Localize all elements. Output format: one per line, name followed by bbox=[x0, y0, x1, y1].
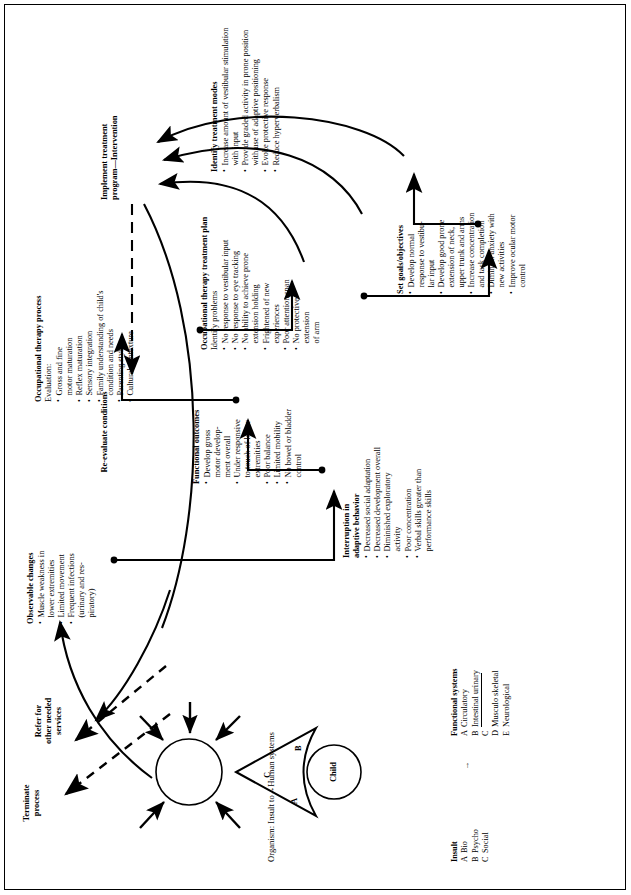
legend-row: B Psycho bbox=[471, 826, 481, 862]
legend-key: A bbox=[460, 853, 470, 862]
list-item: Increase concentration and task completi… bbox=[467, 176, 487, 294]
legend-label: Social bbox=[481, 826, 491, 853]
junction-dot-observable bbox=[111, 557, 118, 564]
legend-key: B bbox=[471, 727, 481, 736]
legend-label: Psycho bbox=[471, 826, 481, 853]
node-ot-process[interactable]: Occupational therapy process Evaluation:… bbox=[34, 254, 136, 402]
list-item: Gross and fine motor maturation bbox=[55, 254, 75, 402]
triangle-label-c: C bbox=[263, 772, 273, 778]
curve-reevaluate-feedback bbox=[144, 204, 194, 628]
legend-label: Circulatory bbox=[460, 667, 470, 727]
set-goals-title: Set goals/objectives bbox=[396, 176, 406, 294]
node-implement-program[interactable]: Implement treatment program—Intervention bbox=[100, 88, 120, 200]
list-item: Diminish anxiety with new activities bbox=[487, 176, 507, 294]
arrow-reevaluate-to-refer bbox=[96, 590, 170, 720]
node-interruption-adaptive-behavior[interactable]: Interruption in adaptive behavior Decrea… bbox=[342, 418, 434, 558]
list-item: Parenting style bbox=[116, 254, 126, 402]
interruption-title: Interruption in adaptive behavior bbox=[342, 418, 362, 558]
list-item: Improve ocular motor control bbox=[508, 176, 528, 294]
ot-plan-subtitle: Identify problems bbox=[210, 186, 220, 350]
legend-label: Musculo skeletal bbox=[491, 667, 501, 727]
list-item: No protective extension of arm bbox=[292, 186, 322, 350]
list-item: Develop gross motor develop- ment overal… bbox=[203, 376, 233, 484]
legend-insult-title: Insult bbox=[450, 826, 460, 862]
legend-functional-systems: Functional systems A Circulatory B Intes… bbox=[450, 667, 512, 736]
legend-key: E bbox=[502, 727, 512, 736]
list-item: No response to vestibular input bbox=[221, 186, 231, 350]
list-item: Evoke protective response bbox=[261, 0, 271, 172]
legend-arrow-symbol: → bbox=[462, 762, 472, 770]
legend-blank-rule bbox=[481, 673, 482, 727]
list-item: Verbal skills greater than performance s… bbox=[414, 418, 434, 558]
list-item: Limited mobility bbox=[273, 376, 283, 484]
interruption-list: Decreased social adaptation Decreased de… bbox=[363, 418, 434, 558]
list-item: Develop good prone extension of neck, up… bbox=[437, 176, 467, 294]
list-item: Limited movement bbox=[57, 520, 67, 624]
child-label: Child bbox=[329, 746, 339, 798]
legend-insult-table: A Bio B Psycho C Social bbox=[460, 826, 491, 862]
legend-label-blank bbox=[481, 667, 491, 727]
legend-insult: Insult A Bio B Psycho C Social bbox=[450, 826, 491, 862]
node-refer-services[interactable]: Refer for other needed services bbox=[34, 678, 64, 764]
legend-row: E Neurological bbox=[502, 667, 512, 736]
ot-plan-list: No response to vestibular input No respo… bbox=[221, 186, 322, 350]
legend-row: A Bio bbox=[460, 826, 470, 862]
node-set-goals[interactable]: Set goals/objectives Develop normal resp… bbox=[396, 176, 528, 294]
list-item: Sensory integration bbox=[85, 254, 95, 402]
ot-process-subtitle: Evaluation: bbox=[44, 254, 54, 402]
node-observable-changes[interactable]: Observable changes Muscle weakness in lo… bbox=[26, 520, 98, 624]
list-item: Frequent infections (urinary and res- pi… bbox=[67, 520, 97, 624]
legend-row: B Intestinal urinary bbox=[471, 667, 481, 736]
node-terminate-process[interactable]: Terminate process bbox=[22, 762, 42, 844]
list-item: Muscle weakness in lower extremities bbox=[37, 520, 57, 624]
junction-dot-interruption bbox=[319, 467, 326, 474]
ot-plan-title: Occupational therapy treatment plan bbox=[200, 186, 210, 350]
arrow-observable-to-interruption bbox=[114, 491, 334, 560]
list-item: Decreased development overall bbox=[373, 418, 383, 558]
functional-outcomes-list: Develop gross motor develop- ment overal… bbox=[203, 376, 304, 484]
list-item: Frightened of new experiences bbox=[262, 186, 282, 350]
functional-outcomes-title: Functional outcomes bbox=[192, 376, 202, 484]
legend-fs-title: Functional systems bbox=[450, 667, 460, 736]
legend-fs-table: A Circulatory B Intestinal urinary C D M… bbox=[460, 667, 512, 736]
junction-dot-plan bbox=[361, 293, 368, 300]
legend-row: D Musculo skeletal bbox=[491, 667, 501, 736]
rotated-figure-canvas: Terminate process Refer for other needed… bbox=[4, 4, 626, 890]
legend-label: Bio bbox=[460, 826, 470, 853]
list-item: Develop normal response to vestibu- lar … bbox=[407, 176, 437, 294]
list-item: Family understanding of child's conditio… bbox=[96, 254, 116, 402]
ot-process-title: Occupational therapy process bbox=[34, 254, 44, 402]
figure-page: Terminate process Refer for other needed… bbox=[0, 0, 631, 895]
arrow-to-observable-changes bbox=[60, 622, 152, 778]
flow-connectors bbox=[4, 4, 626, 890]
legend-row: C Social bbox=[481, 826, 491, 862]
list-item: Poor attention span bbox=[282, 186, 292, 350]
human-systems-circle bbox=[156, 739, 222, 805]
list-item: Decreased social adaptation bbox=[363, 418, 373, 558]
list-item: Increase amount of vestibular stimulatio… bbox=[221, 0, 241, 172]
legend-label: Neurological bbox=[502, 667, 512, 727]
triangle-label-a: A bbox=[290, 798, 300, 804]
ot-process-list: Gross and fine motor maturation Reflex m… bbox=[55, 254, 136, 402]
list-item: No response to eye tracking bbox=[231, 186, 241, 350]
node-functional-outcomes[interactable]: Functional outcomes Develop gross motor … bbox=[192, 376, 304, 484]
list-item: No bowel or bladder control bbox=[284, 376, 304, 484]
list-item: Cultural contexture bbox=[126, 254, 136, 402]
list-item: No ability to achieve prone extension ho… bbox=[241, 186, 261, 350]
legend-key: B bbox=[471, 853, 481, 862]
observable-changes-title: Observable changes bbox=[26, 520, 36, 624]
legend-key: C bbox=[481, 853, 491, 862]
list-item: Under responsive to touch of lower extre… bbox=[233, 376, 263, 484]
node-identify-treatment-modes[interactable]: Identify treatment modes Increase amount… bbox=[210, 0, 282, 172]
treatment-modes-title: Identify treatment modes bbox=[210, 0, 220, 172]
list-item: Poor concentration bbox=[404, 418, 414, 558]
legend-row: C bbox=[481, 667, 491, 736]
legend-label: Intestinal urinary bbox=[471, 667, 481, 727]
legend-key: A bbox=[460, 727, 470, 736]
organism-caption: Organism: Insult to→Human systems bbox=[266, 676, 276, 862]
arrow-to-terminate bbox=[66, 714, 170, 794]
legend-key: C bbox=[481, 727, 491, 736]
legend-key: D bbox=[491, 727, 501, 736]
node-ot-treatment-plan[interactable]: Occupational therapy treatment plan Iden… bbox=[200, 186, 322, 350]
set-goals-list: Develop normal response to vestibu- lar … bbox=[407, 176, 528, 294]
